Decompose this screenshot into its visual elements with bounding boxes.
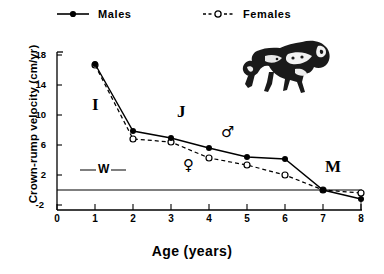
annotation-weaning: W — [96, 163, 111, 175]
chart-figure: Males Females Crown-rump velocity (cm/yr… — [0, 0, 384, 274]
male-symbol-icon: ♂ — [221, 125, 234, 140]
annotation-mature: M — [325, 158, 341, 175]
annotation-juvenile: J — [177, 103, 186, 120]
baboon-illustration — [232, 36, 336, 100]
female-symbol-icon: ♀ — [183, 158, 194, 173]
annotation-infant: I — [92, 96, 99, 113]
